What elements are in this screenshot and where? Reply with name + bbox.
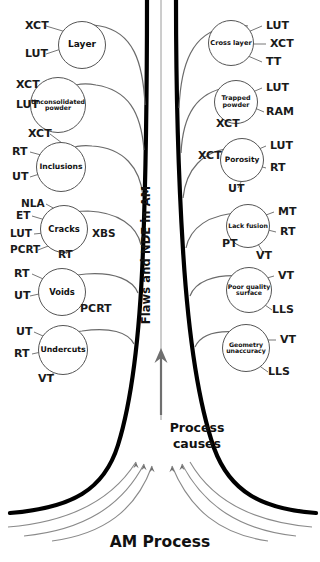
nde-label-lack-fusion-mt: MT [278,205,296,218]
flaw-node-poor-quality-surface[interactable]: Poor quality surface [226,267,272,313]
flaw-node-cross-layer-label: Cross layer [210,40,251,47]
nde-label-poor-quality-surface-vt: VT [278,269,294,282]
process-causes-line1: Process [152,420,242,436]
nde-label-trapped-powder-xct: XCT [216,117,240,130]
flaw-node-poor-quality-surface-label: Poor quality surface [227,284,271,297]
nde-label-porosity-lut: LUT [270,139,293,152]
nde-label-porosity-ut: UT [228,182,244,195]
nde-label-undercuts-ut: UT [16,325,32,338]
flaw-node-undercuts[interactable]: Undercuts [38,325,88,375]
nde-label-unconsolidated-powder-xct: XCT [16,78,40,91]
trunk-left-edge [10,0,147,513]
nde-label-inclusions-xct: XCT [28,127,52,140]
nde-label-trapped-powder-lut: LUT [266,81,289,94]
nde-label-undercuts-vt: VT [38,372,54,385]
nde-label-lack-fusion-rt: RT [280,225,295,238]
am-process-label: AM Process [0,533,320,551]
nde-label-undercuts-rt: RT [14,347,29,360]
nde-label-cracks-lut: LUT [10,227,32,239]
flaw-node-porosity-label: Porosity [225,156,260,164]
diagram-title-vertical: Flaws and NDE in AM [135,165,157,345]
nde-label-cracks-rt: RT [58,248,73,260]
flaw-node-voids-label: Voids [49,288,75,297]
diagram-canvas: Flaws and NDE in AM Layer Unconsolidated… [0,0,320,562]
flaw-node-porosity[interactable]: Porosity [220,138,264,182]
nde-label-cracks-et: ET [16,209,30,221]
nde-label-cross-layer-lut: LUT [266,19,289,32]
flaw-node-layer-label: Layer [68,40,96,49]
nde-label-voids-pcrt: PCRT [80,302,112,315]
flaw-node-geometry-unaccuracy[interactable]: Geometry unaccuracy [222,324,270,372]
nde-label-cracks-pcrt: PCRT [10,243,40,255]
flaw-node-undercuts-label: Undercuts [40,346,85,354]
trunk-flow-arrow [155,348,168,415]
branch-curve-unconsolidated-powder [76,84,144,150]
nde-label-trapped-powder-ram: RAM [266,105,294,118]
flaw-node-layer[interactable]: Layer [58,21,106,69]
flaw-node-geometry-unaccuracy-label: Geometry unaccuracy [223,342,269,355]
flaw-node-inclusions-label: Inclusions [39,163,82,171]
nde-label-porosity-xct: XCT [198,149,222,162]
nde-label-layer-xct: XCT [25,19,49,32]
nde-label-cracks-xbs: XBS [92,227,116,239]
nde-label-lack-fusion-pt: PT [222,237,238,250]
nde-label-cracks-nla: NLA [21,197,45,209]
diagram-title-text: Flaws and NDE in AM [139,186,153,325]
nde-label-porosity-rt: RT [270,161,285,174]
flaw-node-cracks[interactable]: Cracks [40,205,88,253]
flaw-node-trapped-powder-label: Trapped powder [215,95,257,108]
flaw-node-cross-layer[interactable]: Cross layer [208,20,254,66]
nde-label-geometry-unaccuracy-lls: LLS [268,365,290,378]
process-cause-arrows [133,462,184,472]
nde-label-inclusions-ut: UT [12,170,28,183]
flaw-node-voids[interactable]: Voids [38,268,86,316]
nde-label-inclusions-rt: RT [12,145,27,158]
nde-leader-lines-right [222,26,276,372]
nde-label-unconsolidated-powder-lut: LUT [16,98,39,111]
flaw-node-inclusions[interactable]: Inclusions [36,142,86,192]
nde-label-voids-rt: RT [14,267,29,280]
process-causes-label: Process causes [152,420,242,451]
nde-label-cross-layer-xct: XCT [270,37,294,50]
nde-label-geometry-unaccuracy-vt: VT [280,333,296,346]
flaw-node-cracks-label: Cracks [48,225,79,234]
nde-label-layer-lut: LUT [25,47,48,60]
nde-label-cross-layer-tt: TT [266,55,281,68]
process-causes-line2: causes [152,436,242,452]
nde-label-poor-quality-surface-lls: LLS [272,303,294,316]
flaw-node-lack-fusion-label: Lack fusion [228,223,268,230]
nde-label-lack-fusion-vt: VT [256,249,272,262]
nde-label-voids-ut: UT [14,289,30,302]
